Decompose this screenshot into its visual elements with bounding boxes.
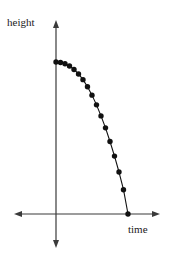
data-point — [98, 113, 103, 118]
x-axis-label: time — [128, 224, 148, 235]
height-vs-time-figure: height time — [0, 0, 170, 263]
data-point — [76, 71, 81, 76]
data-point — [116, 169, 121, 174]
data-point — [103, 125, 108, 130]
x-axis-arrow-left-icon — [14, 211, 22, 217]
data-point — [85, 84, 90, 89]
data-point — [125, 211, 130, 216]
axes — [14, 20, 160, 248]
data-point-group — [53, 59, 130, 216]
data-point — [107, 139, 112, 144]
data-point — [67, 63, 72, 68]
y-axis-arrow-up-icon — [53, 20, 59, 28]
data-point — [71, 67, 76, 72]
data-point — [121, 187, 126, 192]
data-point — [80, 77, 85, 82]
y-axis-arrow-down-icon — [53, 240, 59, 248]
data-point — [112, 153, 117, 158]
data-point — [89, 92, 94, 97]
y-axis-label: height — [7, 17, 35, 28]
trajectory-curve — [56, 62, 128, 214]
x-axis-arrow-right-icon — [152, 211, 160, 217]
data-point — [94, 102, 99, 107]
